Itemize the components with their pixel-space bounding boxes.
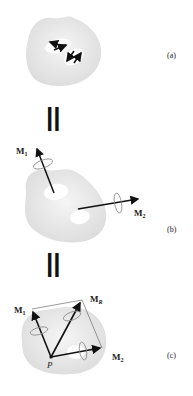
mr-label: MR	[90, 294, 103, 305]
couple-moments-diagram: (a) || M1 M2 (b) || P M	[0, 0, 193, 396]
m2-label-c: M2	[112, 352, 124, 363]
m1-label-c: M1	[14, 305, 26, 316]
panel-label-b: (b)	[167, 225, 177, 234]
panel-label-c: (c)	[167, 351, 176, 360]
equivalence-sign-1: ||	[46, 102, 61, 132]
point-p-dot	[49, 355, 52, 358]
panel-a: (a)	[26, 17, 176, 86]
panel-label-a: (a)	[167, 51, 176, 60]
panel-c: P M1 MR M2 (c)	[14, 294, 176, 375]
point-p-label: P	[46, 360, 53, 370]
panel-b: M1 M2 (b)	[16, 146, 177, 242]
m1-label: M1	[16, 146, 28, 157]
equivalence-sign-2: ||	[46, 248, 61, 278]
m2-label: M2	[134, 208, 146, 219]
